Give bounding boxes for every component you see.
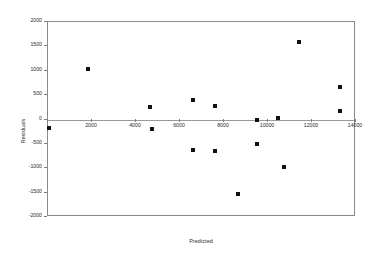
x-tick-mark [223,119,224,122]
x-tick-label: 6000 [173,123,185,128]
x-tick-mark [179,119,180,122]
x-tick-label: 2000 [85,123,97,128]
y-tick-label: -1500 [14,189,42,194]
y-tick-mark [44,94,47,95]
x-tick-mark [47,119,48,122]
x-tick-mark [267,119,268,122]
x-tick-label: 14000 [348,123,362,128]
x-axis-title: Predicted [47,238,355,244]
y-tick-mark [44,45,47,46]
y-tick-mark [44,167,47,168]
y-tick-label: 0 [14,116,42,121]
y-tick-mark [44,216,47,217]
x-tick-mark [355,119,356,122]
x-tick-label: 12000 [304,123,318,128]
y-tick-label: 1500 [14,43,42,48]
x-tick-label: 8000 [217,123,229,128]
y-tick-label: -2000 [14,213,42,218]
y-axis-title: Residuals [20,118,26,143]
y-tick-label: -1000 [14,165,42,170]
y-tick-label: 500 [14,92,42,97]
residual-scatter-chart: 2000150010005000-500-1000-1500-200002000… [0,0,381,261]
y-tick-mark [44,192,47,193]
y-tick-label: -500 [14,140,42,145]
x-tick-mark [135,119,136,122]
x-tick-mark [91,119,92,122]
y-tick-label: 1000 [14,67,42,72]
axis-ticks-layer: 2000150010005000-500-1000-1500-200002000… [0,0,381,261]
x-tick-label: 4000 [129,123,141,128]
y-tick-mark [44,21,47,22]
y-tick-label: 2000 [14,18,42,23]
x-tick-label: 10000 [260,123,274,128]
y-tick-mark [44,143,47,144]
y-tick-mark [44,70,47,71]
x-tick-mark [311,119,312,122]
